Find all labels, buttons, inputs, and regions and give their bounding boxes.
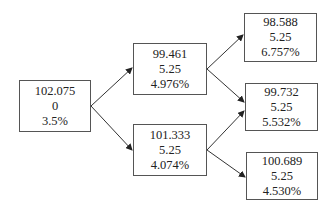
node-coupon: 5.25 bbox=[270, 30, 292, 45]
node-up-down: 99.732 5.25 5.532% bbox=[245, 83, 318, 131]
node-coupon: 5.25 bbox=[271, 169, 293, 184]
arrow-down-to-dd bbox=[207, 150, 245, 177]
node-up-up: 98.588 5.25 6.757% bbox=[244, 13, 317, 62]
node-down: 101.333 5.25 4.074% bbox=[133, 124, 207, 176]
arrow-root-to-down bbox=[91, 106, 132, 150]
arrow-down-to-ud bbox=[207, 111, 244, 150]
node-coupon: 5.25 bbox=[159, 62, 181, 77]
node-down-down: 100.689 5.25 4.530% bbox=[246, 152, 318, 200]
node-price: 100.689 bbox=[262, 154, 303, 169]
node-price: 101.333 bbox=[150, 128, 191, 143]
arrow-up-to-uu bbox=[207, 35, 243, 69]
node-rate: 4.976% bbox=[151, 77, 190, 92]
node-coupon: 5.25 bbox=[159, 143, 181, 158]
node-price: 102.075 bbox=[35, 84, 76, 99]
node-coupon: 5.25 bbox=[271, 100, 293, 115]
node-price: 99.461 bbox=[153, 47, 187, 62]
node-price: 99.732 bbox=[264, 85, 298, 100]
node-up: 99.461 5.25 4.976% bbox=[133, 43, 207, 95]
arrow-root-to-up bbox=[91, 68, 132, 106]
node-rate: 4.530% bbox=[263, 184, 302, 199]
node-rate: 4.074% bbox=[151, 158, 190, 173]
arrow-up-to-ud bbox=[207, 69, 244, 102]
node-coupon: 0 bbox=[52, 99, 58, 114]
node-rate: 6.757% bbox=[261, 45, 300, 60]
node-root: 102.075 0 3.5% bbox=[19, 80, 91, 132]
node-rate: 5.532% bbox=[262, 115, 301, 130]
node-price: 98.588 bbox=[263, 15, 297, 30]
node-rate: 3.5% bbox=[42, 114, 68, 129]
